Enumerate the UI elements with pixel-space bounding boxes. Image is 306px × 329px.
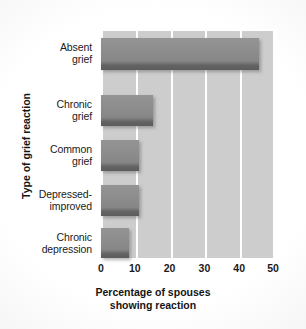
chart-figure: Type of grief reaction Absent grief Chro… xyxy=(0,0,306,329)
y-category-line-1: Absent xyxy=(0,42,92,54)
y-category-label-absent-grief: Absent grief xyxy=(0,42,92,65)
y-category-line-1: Chronic xyxy=(0,232,92,244)
bar-depressed-improved[interactable] xyxy=(101,185,139,216)
y-category-line-2: grief xyxy=(0,111,92,123)
y-category-label-common-grief: Common grief xyxy=(0,144,92,167)
x-tick-50: 50 xyxy=(267,262,279,274)
x-tick-30: 30 xyxy=(199,262,211,274)
y-category-line-2: grief xyxy=(0,156,92,168)
x-axis-title: Percentage of spouses showing reaction xyxy=(0,286,306,311)
y-category-line-2: improved xyxy=(0,201,92,213)
bar-chronic-grief[interactable] xyxy=(101,95,153,126)
x-axis-title-line-2: showing reaction xyxy=(0,299,306,312)
y-category-label-chronic-grief: Chronic grief xyxy=(0,99,92,122)
y-category-line-2: grief xyxy=(0,54,92,66)
plot-area: Absent grief Chronic grief Common grief … xyxy=(99,29,277,260)
y-category-label-chronic-depression: Chronic depression xyxy=(0,232,92,255)
bar-common-grief[interactable] xyxy=(101,140,139,171)
x-axis-ticks: 0 10 20 30 40 50 xyxy=(99,262,277,276)
x-tick-20: 20 xyxy=(164,262,176,274)
y-category-line-1: Depressed- xyxy=(0,189,92,201)
bar-absent-grief[interactable] xyxy=(101,38,259,70)
y-category-line-1: Common xyxy=(0,144,92,156)
bar-chronic-depression[interactable] xyxy=(101,228,129,258)
x-axis-title-line-1: Percentage of spouses xyxy=(0,286,306,299)
bars xyxy=(101,31,275,258)
y-category-line-2: depression xyxy=(0,244,92,256)
x-tick-0: 0 xyxy=(98,262,104,274)
x-tick-10: 10 xyxy=(129,262,141,274)
y-category-label-depressed-improved: Depressed- improved xyxy=(0,189,92,212)
y-category-line-1: Chronic xyxy=(0,99,92,111)
x-tick-40: 40 xyxy=(233,262,245,274)
